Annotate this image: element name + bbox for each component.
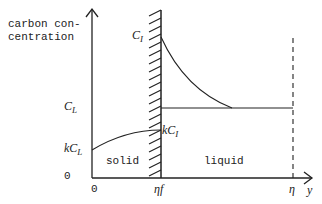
solid-concentration-curve xyxy=(92,130,161,150)
liquid-concentration-curve xyxy=(161,37,232,108)
x-tick-zero: 0 xyxy=(91,183,98,195)
y-axis-label-line2: centration xyxy=(8,31,74,43)
y-tick-kcl: kCL xyxy=(64,142,82,155)
y-axis-label-line1: carbon con- xyxy=(8,18,81,30)
x-tick-eta: η xyxy=(289,183,295,195)
interface-hatching xyxy=(149,10,161,176)
region-label-solid: solid xyxy=(106,155,139,167)
y-tick-cl: CL xyxy=(64,100,77,113)
interface-bottom-label: kCI xyxy=(162,124,178,137)
region-label-liquid: liquid xyxy=(204,155,244,167)
x-axis-label: y xyxy=(307,184,312,196)
interface-top-label: CI xyxy=(132,29,143,42)
y-tick-zero: 0 xyxy=(64,170,71,182)
x-tick-interface: ηf xyxy=(154,183,163,195)
